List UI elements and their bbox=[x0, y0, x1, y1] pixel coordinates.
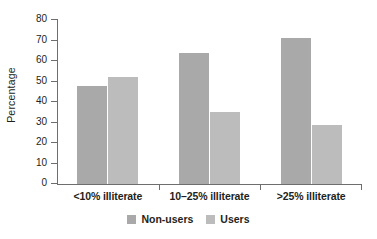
x-axis-line bbox=[57, 184, 362, 185]
y-axis-tick-label: 50 bbox=[36, 75, 47, 86]
bar bbox=[312, 125, 342, 184]
y-axis-tick: 0 bbox=[51, 183, 57, 184]
bar bbox=[281, 38, 311, 184]
y-axis-tick: 10 bbox=[51, 163, 57, 164]
x-axis-category-label: >25% illiterate bbox=[260, 190, 362, 202]
y-axis-tick-label: 10 bbox=[36, 157, 47, 168]
y-axis-tick: 50 bbox=[51, 81, 57, 82]
legend-item[interactable]: Non-users bbox=[127, 213, 193, 225]
legend-item[interactable]: Users bbox=[206, 213, 249, 225]
y-axis-tick: 70 bbox=[51, 40, 57, 41]
y-axis-tick-label: 20 bbox=[36, 136, 47, 147]
plot-area: 01020304050607080 bbox=[57, 20, 362, 184]
legend-swatch-icon bbox=[127, 215, 136, 224]
y-axis-tick: 30 bbox=[51, 122, 57, 123]
x-axis-labels: <10% illiterate10–25% illiterate>25% ill… bbox=[57, 190, 362, 206]
y-axis-tick-label: 60 bbox=[36, 54, 47, 65]
y-axis-tick: 60 bbox=[51, 60, 57, 61]
x-axis-category-label: <10% illiterate bbox=[57, 190, 159, 202]
y-axis-tick: 40 bbox=[51, 101, 57, 102]
y-axis-title: Percentage bbox=[0, 0, 22, 190]
chart-legend: Non-usersUsers bbox=[0, 213, 377, 225]
bar bbox=[108, 77, 138, 184]
legend-swatch-icon bbox=[206, 215, 215, 224]
y-axis-tick-label: 40 bbox=[36, 95, 47, 106]
bar-chart: Percentage 01020304050607080 <10% illite… bbox=[0, 0, 377, 239]
y-axis-tick-label: 70 bbox=[36, 34, 47, 45]
y-axis-tick: 80 bbox=[51, 19, 57, 20]
y-axis-line bbox=[57, 19, 58, 185]
bar bbox=[179, 53, 209, 184]
bar bbox=[77, 86, 107, 184]
y-axis-title-label: Percentage bbox=[5, 67, 17, 123]
x-axis-category-label: 10–25% illiterate bbox=[159, 190, 261, 202]
legend-label: Non-users bbox=[141, 213, 193, 225]
legend-label: Users bbox=[220, 213, 249, 225]
y-axis-tick-label: 30 bbox=[36, 116, 47, 127]
bar bbox=[210, 112, 240, 184]
y-axis-tick: 20 bbox=[51, 142, 57, 143]
y-axis-tick-label: 80 bbox=[36, 13, 47, 24]
y-axis-tick-label: 0 bbox=[41, 177, 47, 188]
